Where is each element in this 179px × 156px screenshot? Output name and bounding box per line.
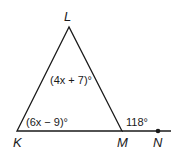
vertex-label-n: N [153, 136, 162, 149]
angle-label-exterior-m: 118° [126, 117, 148, 128]
vertex-label-k: K [13, 136, 22, 149]
vertex-label-l: L [64, 10, 71, 23]
angle-label-l: (4x + 7)° [50, 75, 92, 86]
point-n-dot [156, 129, 161, 134]
angle-label-k: (6x − 9)° [26, 117, 68, 128]
vertex-label-m: M [117, 136, 128, 149]
